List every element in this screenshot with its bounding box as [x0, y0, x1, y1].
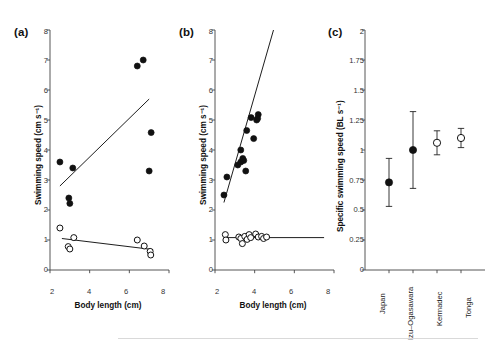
data-point-filled — [146, 168, 152, 174]
data-point-filled — [238, 147, 244, 153]
data-point-filled — [134, 63, 140, 69]
data-point-open — [433, 139, 440, 146]
data-point-open — [134, 237, 140, 243]
data-point-filled — [140, 57, 146, 63]
data-point-filled — [244, 128, 250, 134]
data-point-filled — [255, 116, 261, 122]
panel-c: (c) Specific swimming speed (BL s⁻¹) 2 1… — [325, 0, 491, 351]
data-point-filled — [248, 115, 254, 121]
data-point-open — [141, 243, 147, 249]
figure-container: (a) Swimming speed (cm s⁻¹) 8 7 6 5 4 3 … — [0, 0, 491, 351]
footer-rule — [118, 338, 478, 339]
panel-a-x-axis-label: Body length (cm) — [38, 301, 178, 310]
panel-c-plot-area — [325, 0, 491, 300]
data-point-filled — [243, 168, 249, 174]
data-point-filled — [224, 174, 230, 180]
data-point-open — [223, 237, 229, 243]
data-point-filled — [70, 165, 76, 171]
data-point-filled — [409, 146, 416, 153]
panel-c-category-tonga: Tonga — [464, 297, 473, 318]
data-point-filled — [240, 155, 246, 161]
data-point-filled — [221, 192, 227, 198]
data-point-open — [264, 234, 270, 240]
data-point-open — [57, 225, 63, 231]
data-point-filled — [251, 136, 257, 142]
data-point-open — [71, 235, 77, 241]
data-point-open — [148, 252, 154, 258]
data-point-open — [457, 134, 464, 141]
data-point-filled — [148, 130, 154, 136]
data-point-open — [67, 246, 73, 252]
panel-a: (a) Swimming speed (cm s⁻¹) 8 7 6 5 4 3 … — [0, 0, 170, 330]
panel-b-x-axis-label: Body length (cm) — [203, 301, 343, 310]
panel-b: (b) Swimming speed (cm s⁻¹) 8 7 6 5 4 3 … — [165, 0, 335, 330]
data-point-filled — [385, 179, 392, 186]
panel-a-plot-area — [0, 0, 180, 300]
data-point-filled — [57, 159, 63, 165]
data-point-filled — [66, 195, 72, 201]
data-point-filled — [67, 200, 73, 206]
regression-line — [60, 99, 149, 186]
panel-b-plot-area — [165, 0, 345, 300]
